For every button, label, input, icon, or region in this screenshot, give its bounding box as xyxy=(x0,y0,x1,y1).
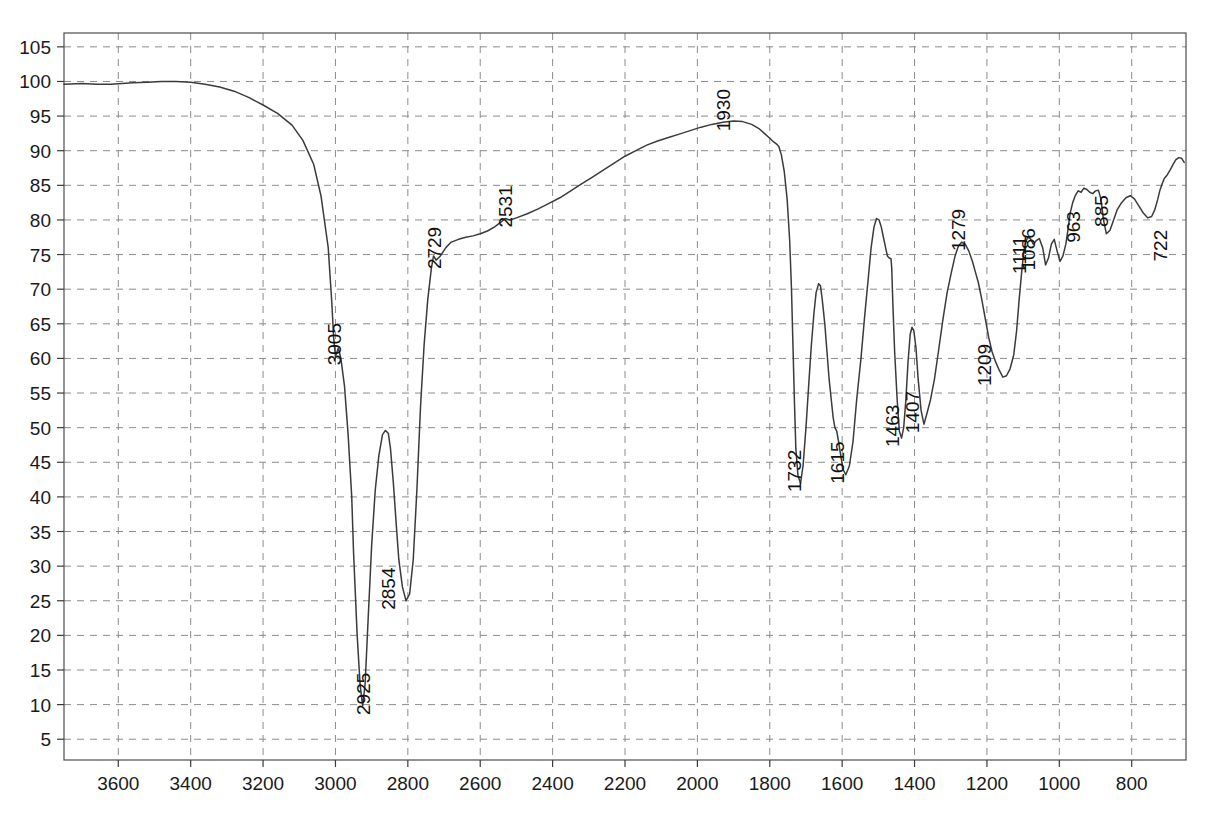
peak-label: 2925 xyxy=(353,673,374,715)
peak-label-text: 885 xyxy=(1091,195,1112,227)
x-tick-label: 2800 xyxy=(387,773,429,794)
x-tick-label: 3600 xyxy=(97,773,139,794)
spectrum-trace xyxy=(64,81,1184,706)
y-tick-label: 45 xyxy=(30,452,51,473)
peak-label: 3005 xyxy=(324,323,345,365)
peak-label: 1463 xyxy=(882,405,903,447)
y-tick-label: 95 xyxy=(30,106,51,127)
peak-label-text: 2729 xyxy=(424,227,445,269)
peak-label-text: 1930 xyxy=(713,89,734,131)
peak-label: 1209 xyxy=(974,344,995,386)
peak-label-text: 1732 xyxy=(784,450,805,492)
y-tick-label: 85 xyxy=(30,175,51,196)
chart-canvas: 5101520253035404550556065707580859095100… xyxy=(0,0,1215,822)
peak-label-text: 1086 xyxy=(1018,228,1039,270)
y-tick-label: 30 xyxy=(30,556,51,577)
peak-label-text: 2854 xyxy=(378,567,399,610)
y-tick-label: 50 xyxy=(30,418,51,439)
y-tick-label: 5 xyxy=(40,729,51,750)
peak-label: 885 xyxy=(1091,195,1112,227)
y-tick-label: 60 xyxy=(30,348,51,369)
grid-layer xyxy=(64,33,1186,760)
y-tick-label: 10 xyxy=(30,695,51,716)
y-tick-label: 25 xyxy=(30,591,51,612)
x-tick-label: 3200 xyxy=(242,773,284,794)
x-axis-tick-labels: 3600340032003000280026002400220020001800… xyxy=(97,773,1147,794)
peak-label: 1407 xyxy=(902,391,923,433)
peak-label-text: 2531 xyxy=(495,185,516,227)
peak-label: 1086 xyxy=(1018,228,1039,270)
x-tick-label: 1600 xyxy=(821,773,863,794)
y-tick-label: 20 xyxy=(30,625,51,646)
x-tick-label: 1000 xyxy=(1038,773,1080,794)
y-axis-tick-labels: 5101520253035404550556065707580859095100… xyxy=(19,37,51,750)
peak-label: 2729 xyxy=(424,227,445,269)
y-tick-label: 15 xyxy=(30,660,51,681)
y-tick-label: 100 xyxy=(19,71,51,92)
peak-label: 2531 xyxy=(495,185,516,227)
x-tick-label: 1400 xyxy=(893,773,935,794)
x-tick-label: 2400 xyxy=(531,773,573,794)
x-tick-label: 800 xyxy=(1116,773,1148,794)
peak-label-text: 722 xyxy=(1150,230,1171,262)
x-tick-label: 1800 xyxy=(749,773,791,794)
x-axis-ticks xyxy=(118,760,1131,767)
peak-label: 1930 xyxy=(713,89,734,131)
y-axis-ticks xyxy=(57,47,64,739)
peak-label: 1279 xyxy=(948,209,969,251)
x-gridlines xyxy=(118,33,1131,760)
peak-label: 2854 xyxy=(378,567,399,610)
x-tick-label: 2200 xyxy=(604,773,646,794)
y-tick-label: 90 xyxy=(30,141,51,162)
y-tick-label: 70 xyxy=(30,279,51,300)
y-tick-label: 55 xyxy=(30,383,51,404)
peak-label: 722 xyxy=(1150,230,1171,262)
peak-label-text: 2925 xyxy=(353,673,374,715)
peak-label-text: 963 xyxy=(1063,211,1084,243)
peak-label-group: 3005292528542729253119301732161514631407… xyxy=(324,89,1171,715)
x-tick-label: 3000 xyxy=(314,773,356,794)
x-tick-label: 3400 xyxy=(170,773,212,794)
peak-label: 1615 xyxy=(827,441,848,483)
y-tick-label: 65 xyxy=(30,314,51,335)
x-tick-label: 1200 xyxy=(966,773,1008,794)
y-tick-label: 75 xyxy=(30,245,51,266)
x-tick-label: 2600 xyxy=(459,773,501,794)
peak-label-text: 1463 xyxy=(882,405,903,447)
x-tick-label: 2000 xyxy=(676,773,718,794)
peak-label-text: 3005 xyxy=(324,323,345,365)
peak-label-text: 1209 xyxy=(974,344,995,386)
y-tick-label: 80 xyxy=(30,210,51,231)
y-tick-label: 40 xyxy=(30,487,51,508)
peak-label: 963 xyxy=(1063,211,1084,243)
peak-label-text: 1279 xyxy=(948,209,969,251)
ir-spectrum-chart: 5101520253035404550556065707580859095100… xyxy=(0,0,1215,822)
peak-label-text: 1407 xyxy=(902,391,923,433)
peak-label-text: 1615 xyxy=(827,441,848,483)
peak-label: 1732 xyxy=(784,450,805,492)
y-tick-label: 35 xyxy=(30,522,51,543)
y-tick-label: 105 xyxy=(19,37,51,58)
